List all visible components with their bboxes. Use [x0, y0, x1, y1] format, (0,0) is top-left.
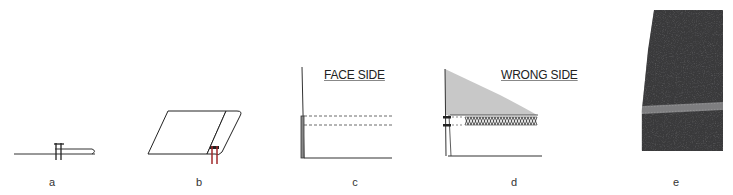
panel-c: FACE SIDE c — [280, 0, 430, 195]
caption-a: a — [42, 176, 62, 188]
panel-a: a — [0, 0, 130, 195]
wrong-side-label: WRONG SIDE — [501, 68, 578, 82]
caption-d: d — [504, 176, 524, 188]
knit-fabric-image — [640, 10, 723, 158]
panel-d: WRONG SIDE d — [430, 0, 600, 195]
folded-edge-cross-section-diagram — [0, 0, 130, 195]
rolled-hem-fabric-diagram — [130, 0, 280, 195]
caption-e: e — [666, 176, 686, 188]
face-side-diagram — [280, 0, 430, 195]
wrong-side-diagram — [430, 0, 600, 195]
fabric-hem-photo — [640, 10, 723, 158]
panel-b: b — [130, 0, 280, 195]
face-side-label: FACE SIDE — [324, 68, 385, 82]
caption-b: b — [189, 176, 209, 188]
caption-c: c — [345, 176, 365, 188]
